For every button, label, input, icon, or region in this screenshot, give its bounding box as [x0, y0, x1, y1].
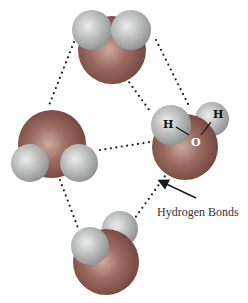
oxygen-label: O — [191, 136, 201, 149]
hbond-top-left — [48, 42, 74, 108]
water-hydrogen-bond-diagram: H H O Hydrogen Bonds — [0, 0, 248, 303]
hydrogen-bonds-annotation: Hydrogen Bonds — [157, 181, 239, 219]
arrow-icon — [160, 181, 196, 198]
hydrogen-label: H — [213, 108, 223, 121]
hbond-top-right-outer — [156, 40, 190, 108]
hydrogen-atom — [11, 144, 49, 182]
hbond-top-right-inner — [126, 78, 150, 111]
water-molecule-right: H H O — [151, 102, 229, 180]
hbond-left-right — [100, 142, 150, 150]
water-molecule-left — [11, 110, 98, 182]
hydrogen-bonds-label: Hydrogen Bonds — [157, 205, 239, 219]
hydrogen-atom — [72, 10, 112, 50]
hydrogen-atom — [71, 227, 109, 265]
water-molecule-top — [72, 10, 151, 84]
hydrogen-label: H — [163, 118, 173, 131]
hbond-left-bottom — [60, 180, 78, 228]
water-molecule-bottom — [71, 211, 139, 295]
hydrogen-atom — [111, 10, 151, 50]
hydrogen-atom — [60, 144, 98, 182]
